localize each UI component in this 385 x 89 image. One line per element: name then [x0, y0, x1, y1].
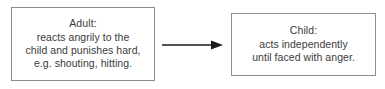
node-child-title: Child: [290, 24, 317, 37]
diagram-canvas: Adult: reacts angrily to the child and p… [0, 0, 385, 89]
arrow-right-icon [160, 36, 226, 54]
node-adult-line-1: reacts angrily to the [37, 31, 130, 44]
node-child-line-2: until faced with anger. [252, 51, 355, 64]
node-adult[interactable]: Adult: reacts angrily to the child and p… [11, 7, 155, 81]
node-child[interactable]: Child: acts independently until faced wi… [231, 13, 376, 76]
node-adult-title: Adult: [69, 17, 96, 30]
node-adult-line-2: child and punishes hard, [25, 44, 140, 57]
node-child-line-1: acts independently [259, 38, 347, 51]
node-adult-line-3: e.g. shouting, hitting. [34, 57, 132, 70]
